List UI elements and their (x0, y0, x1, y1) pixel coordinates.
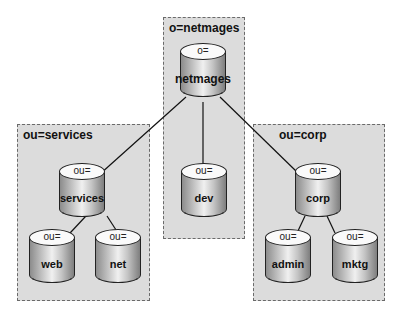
node-attr: o= (180, 45, 226, 56)
node-attr: ou= (332, 231, 378, 242)
node-net[interactable]: ou= net (95, 229, 141, 291)
node-name: admin (259, 258, 317, 270)
node-name: netmages (174, 72, 232, 86)
node-admin[interactable]: ou= admin (265, 229, 311, 291)
node-corp[interactable]: ou= corp (295, 163, 341, 225)
node-mktg[interactable]: ou= mktg (332, 229, 378, 291)
node-name: corp (289, 192, 347, 204)
node-name: net (89, 258, 147, 270)
node-services[interactable]: ou= services (59, 163, 105, 225)
edge-netmages-services (100, 97, 186, 174)
node-attr: ou= (295, 165, 341, 176)
node-name: dev (175, 192, 233, 204)
node-name: services (53, 192, 111, 204)
node-name: web (23, 258, 81, 270)
node-attr: ou= (95, 231, 141, 242)
edge-netmages-corp (220, 97, 297, 172)
node-attr: ou= (181, 165, 227, 176)
node-attr: ou= (29, 231, 75, 242)
node-attr: ou= (59, 165, 105, 176)
node-attr: ou= (265, 231, 311, 242)
node-dev[interactable]: ou= dev (181, 163, 227, 225)
node-netmages[interactable]: o= netmages (180, 43, 226, 105)
node-web[interactable]: ou= web (29, 229, 75, 291)
node-name: mktg (326, 258, 384, 270)
